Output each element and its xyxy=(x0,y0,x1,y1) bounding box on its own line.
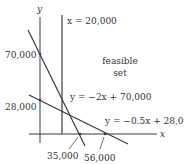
constraint-line-1 xyxy=(28,30,85,146)
y-intercept-point-line1 xyxy=(39,53,42,56)
y-intercept-label-line1: 70,000 xyxy=(5,50,37,60)
feasible-set-label-line1: feasible xyxy=(102,56,138,66)
feasible-set-label-line2: set xyxy=(113,68,127,78)
arrow-35000 xyxy=(69,137,78,149)
x-intercept-label-line1: 35,000 xyxy=(47,151,79,161)
x-intercept-label-line2: 56,000 xyxy=(84,153,116,163)
y-axis-label: y xyxy=(36,4,43,14)
x-intercept-point-line2 xyxy=(104,133,107,136)
x-axis-label: x xyxy=(160,129,165,139)
constraint-label-line1: y = −2x + 70,000 xyxy=(69,92,152,102)
arrow-56000 xyxy=(100,137,104,149)
feasible-set-diagram: y x x = 20,000 70,000 y = −2x + 70,000 2… xyxy=(0,0,184,164)
constraint-label-line2: y = −0.5x + 28,000 xyxy=(104,116,184,126)
y-intercept-point-line2 xyxy=(39,99,42,102)
y-intercept-label-line2: 28,000 xyxy=(5,102,37,112)
x-intercept-point-line1 xyxy=(79,133,82,136)
constraint-label-x-20000: x = 20,000 xyxy=(67,16,117,26)
